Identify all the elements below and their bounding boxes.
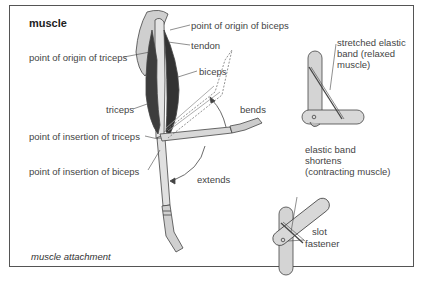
- label-bends: bends: [240, 104, 266, 115]
- label-origin-triceps: point of origin of triceps: [29, 52, 127, 63]
- hand-down: [162, 205, 183, 252]
- forearm-down: [157, 138, 170, 206]
- label-contracting-2: shortens: [305, 155, 341, 166]
- diagram-caption: muscle attachment: [31, 251, 111, 262]
- bends-arrow: [212, 100, 226, 127]
- label-insertion-biceps: point of insertion of biceps: [29, 166, 139, 177]
- label-relaxed-1: stretched elastic: [337, 37, 406, 48]
- label-insertion-triceps: point of insertion of triceps: [29, 131, 140, 142]
- label-fastener: fastener: [305, 238, 339, 249]
- label-tendon: tendon: [191, 40, 220, 51]
- label-relaxed-2: band (relaxed: [337, 48, 395, 59]
- diagram-title: muscle: [29, 17, 67, 29]
- horizontal-stick: [302, 110, 364, 124]
- hand-horizontal: [230, 118, 262, 133]
- label-relaxed-3: muscle): [337, 59, 370, 70]
- label-extends: extends: [197, 174, 230, 185]
- label-triceps: triceps: [106, 104, 134, 115]
- label-origin-biceps: point of origin of biceps: [191, 20, 289, 31]
- label-contracting-1: elastic band: [305, 144, 356, 155]
- label-contracting-3: (contracting muscle): [305, 166, 391, 177]
- label-slot: slot: [312, 226, 327, 237]
- label-biceps: biceps: [199, 66, 226, 77]
